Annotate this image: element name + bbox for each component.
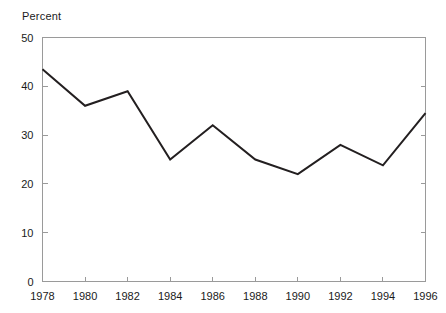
y-tick-label: 30 <box>21 129 33 141</box>
y-tick-label: 40 <box>21 80 33 92</box>
x-axis-tick-marks <box>85 277 383 282</box>
plot-frame <box>43 38 426 282</box>
y-tick-label: 10 <box>21 227 33 239</box>
x-axis-tick-labels: 1978198019821984198619881990199219941996 <box>30 290 437 302</box>
x-tick-label: 1980 <box>73 290 97 302</box>
y-tick-label: 50 <box>21 32 33 44</box>
x-tick-label: 1996 <box>413 290 437 302</box>
x-tick-label: 1986 <box>200 290 224 302</box>
data-series-line <box>43 69 426 174</box>
x-tick-label: 1984 <box>158 290 182 302</box>
line-chart-plot: 01020304050 1978198019821984198619881990… <box>0 0 446 313</box>
y-tick-label: 0 <box>27 276 33 288</box>
y-axis-tick-marks <box>43 86 426 232</box>
x-tick-label: 1982 <box>115 290 139 302</box>
x-tick-label: 1990 <box>286 290 310 302</box>
chart-figure: Percent 01020304050 19781980198219841986… <box>0 0 446 313</box>
y-axis-tick-labels: 01020304050 <box>21 32 33 288</box>
x-tick-label: 1992 <box>328 290 352 302</box>
y-tick-label: 20 <box>21 178 33 190</box>
x-tick-label: 1988 <box>243 290 267 302</box>
x-tick-label: 1978 <box>30 290 54 302</box>
x-tick-label: 1994 <box>371 290 395 302</box>
